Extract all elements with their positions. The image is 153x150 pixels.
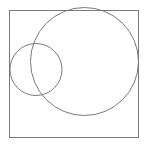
diagram-canvas	[0, 0, 153, 150]
square-frame	[10, 11, 139, 138]
small-circle	[10, 44, 62, 96]
large-circle	[31, 8, 139, 116]
